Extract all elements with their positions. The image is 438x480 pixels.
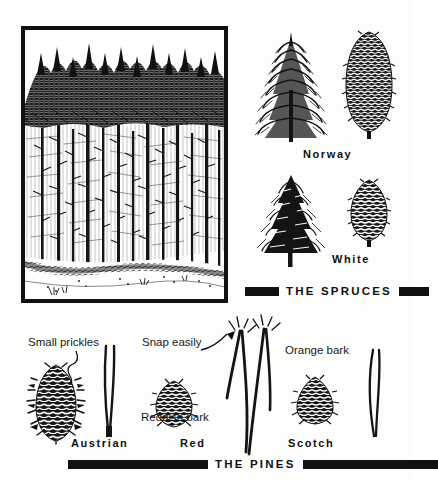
small-prickles-annotation: Small prickles xyxy=(28,336,99,348)
austrian-pine-cone-art xyxy=(26,362,86,444)
white-label: White xyxy=(332,253,370,265)
forest-stand-panel xyxy=(21,26,228,303)
norway-spruce-tree-art xyxy=(253,28,331,146)
red-label: Red xyxy=(180,437,206,449)
scotch-label: Scotch xyxy=(288,437,334,449)
reddish-bark-annotation: Reddish bark xyxy=(141,411,209,423)
red-pine-snapped-needles-art xyxy=(213,318,283,458)
spruces-banner-text: THE SPRUCES xyxy=(286,285,392,297)
pines-banner-bar-left xyxy=(68,460,208,469)
forest-stand-illustration xyxy=(24,29,225,300)
scotch-pine-cone-art xyxy=(288,374,342,426)
pines-section-banner: THE PINES xyxy=(68,458,438,470)
pines-banner-bar-right xyxy=(303,460,438,469)
banner-bar-left xyxy=(245,287,279,296)
scotch-pine-needles-art xyxy=(363,348,389,440)
austrian-pine-needles-art xyxy=(97,344,123,439)
white-spruce-tree-art xyxy=(255,173,327,268)
orange-bark-annotation: Orange bark xyxy=(285,344,349,356)
pines-banner-text: THE PINES xyxy=(215,458,296,470)
banner-bar-right xyxy=(399,287,429,296)
white-spruce-cone-art xyxy=(345,178,393,250)
spruces-section-banner: THE SPRUCES xyxy=(245,285,429,297)
austrian-label: Austrian xyxy=(71,437,128,449)
norway-spruce-cone-art xyxy=(340,30,398,142)
snap-easily-annotation: Snap easily xyxy=(142,336,201,348)
norway-label: Norway xyxy=(303,148,352,160)
